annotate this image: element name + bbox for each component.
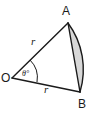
geometry-diagram: O A B r r θ° (0, 0, 99, 113)
vertex-label-b: B (78, 97, 86, 111)
angle-arc-marker (30, 60, 37, 82)
radius-label-lower: r (44, 83, 49, 95)
vertex-label-o: O (1, 71, 10, 85)
radius-label-upper: r (31, 35, 36, 47)
angle-label-theta: θ° (22, 69, 30, 78)
vertex-label-a: A (62, 4, 70, 18)
radius-oa (12, 23, 68, 78)
sector-diagram-canvas: O A B r r θ° (0, 0, 99, 113)
